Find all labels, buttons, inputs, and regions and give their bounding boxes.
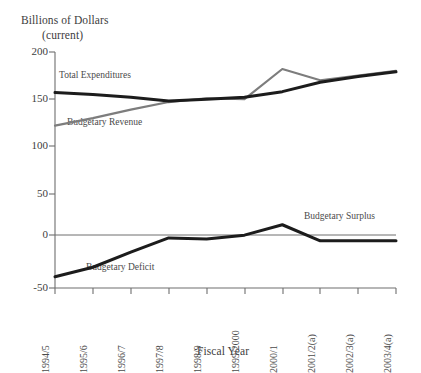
- series-line-budgetary-balance: [55, 225, 396, 277]
- plot-area: [0, 0, 421, 373]
- axis-group: [49, 52, 396, 294]
- data-series-group: [55, 69, 396, 277]
- y-tick-marks: [49, 52, 55, 288]
- x-tick-marks: [55, 288, 396, 294]
- chart-figure: Billions of Dollars (current) Fiscal Yea…: [0, 0, 421, 373]
